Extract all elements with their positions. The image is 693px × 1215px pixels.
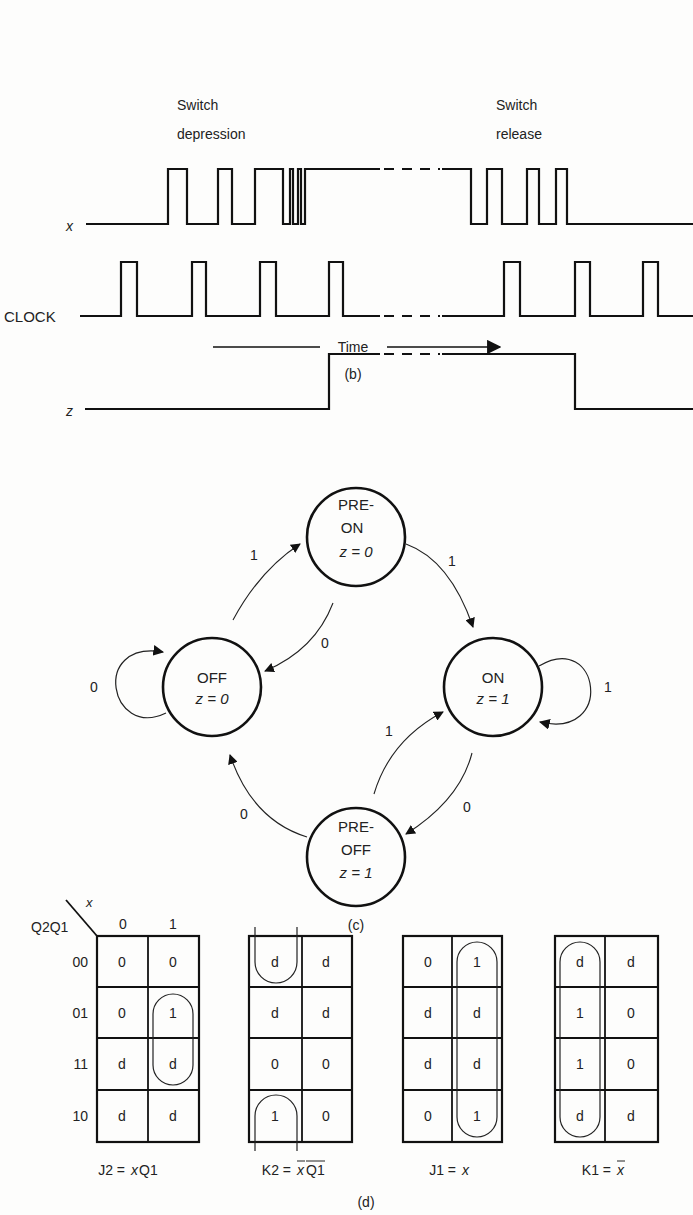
- z-waveform-2: [442, 354, 693, 409]
- state-on-output: z = 1: [476, 690, 510, 707]
- kmap-cell: 1: [576, 1005, 584, 1021]
- edge-label-preoff-off: 0: [240, 806, 248, 822]
- kmap-row-header-00: 00: [72, 954, 88, 970]
- edge-label-on-self: 1: [604, 679, 612, 695]
- kmap-cell: 1: [473, 1108, 481, 1124]
- signal-label-x: x: [65, 218, 74, 234]
- edge-on-to-preoff: [406, 753, 472, 834]
- kmap-cell: 0: [322, 1056, 330, 1072]
- kmap-cell: 0: [424, 954, 432, 970]
- edge-label-preoff-on: 1: [385, 723, 393, 739]
- edge-off-to-preon: [233, 544, 300, 620]
- state-preon-output: z = 0: [339, 543, 374, 560]
- kmap-cell: 1: [473, 954, 481, 970]
- kmap-cell: 1: [271, 1108, 279, 1124]
- kmap-row-header-11: 11: [73, 1056, 88, 1072]
- kmap-cell: 1: [169, 1005, 177, 1021]
- switch-release-label-2: release: [496, 126, 542, 142]
- kmap-j1-eq-rhs: x: [461, 1162, 470, 1178]
- kmap-k2-eq-rhs-q1bar: Q1: [306, 1162, 325, 1178]
- kmap-k1: d d 1 0 1 0 d d K1 = x: [555, 936, 658, 1178]
- kmap-cell: d: [169, 1108, 177, 1124]
- kmap-cell: d: [473, 1005, 481, 1021]
- kmap-cell: d: [576, 954, 584, 970]
- kmap-k1-eq-rhs: x: [616, 1162, 625, 1178]
- edge-preoff-to-off: [230, 755, 307, 837]
- state-on-name: ON: [482, 669, 505, 686]
- state-pre-on: PRE- ON z = 0: [307, 488, 405, 586]
- kmap-j2: 0 0 0 1 d d d d J2 = x Q1: [97, 936, 199, 1178]
- state-off: OFF z = 0: [163, 638, 261, 736]
- state-preoff-output: z = 1: [339, 864, 373, 881]
- kmap-cell: d: [271, 954, 279, 970]
- state-off-name: OFF: [197, 669, 227, 686]
- kmap-cell: 0: [118, 1005, 126, 1021]
- clock-waveform: [80, 262, 380, 316]
- edge-label-on-preoff: 0: [463, 799, 471, 815]
- state-diagram: 1 0 1 0 1 0 0 1 OFF z = 0 PRE- ON z = 0: [90, 488, 612, 933]
- kmap-cell: d: [424, 1005, 432, 1021]
- clock-waveform-2: [442, 262, 693, 316]
- state-off-output: z = 0: [195, 690, 230, 707]
- kmap-j1: 0 1 d d d d 0 1 J1 = x: [403, 936, 502, 1178]
- edge-preon-to-on: [406, 544, 473, 627]
- kmap-row-header-01: 01: [72, 1005, 88, 1021]
- signal-label-z: z: [65, 403, 73, 419]
- kmap-j2-eq-rhs-x: x: [130, 1162, 139, 1178]
- state-preon-name-2: ON: [341, 519, 364, 536]
- kmap-k1-eq-lhs: K1 =: [582, 1162, 611, 1178]
- time-axis-label: Time: [338, 339, 369, 355]
- kmap-cell: 0: [424, 1108, 432, 1124]
- edge-label-off-preon: 1: [250, 547, 258, 563]
- kmap-cell: d: [322, 954, 330, 970]
- self-loop-on: [539, 659, 591, 724]
- state-pre-off: PRE- OFF z = 1: [307, 808, 405, 906]
- kmap-cell: 0: [627, 1056, 635, 1072]
- kmap-k2-eq-rhs-xbar: x: [296, 1162, 305, 1178]
- kmap-cell: 0: [322, 1108, 330, 1124]
- kmap-cell: d: [271, 1005, 279, 1021]
- kmap-j2-eq-rhs-q1: Q1: [139, 1162, 158, 1178]
- kmap-row-var: Q2Q1: [31, 919, 69, 935]
- kmap-cell: d: [322, 1005, 330, 1021]
- state-preoff-name-2: OFF: [341, 841, 371, 858]
- kmaps: x Q2Q1 0 1 00 01 11 10 0 0 0 1 d d d d J…: [31, 895, 658, 1210]
- kmap-j2-eq-lhs: J2 =: [98, 1162, 125, 1178]
- kmap-col-var: x: [85, 895, 93, 910]
- edge-label-off-self: 0: [90, 679, 98, 695]
- edge-label-preon-on: 1: [448, 553, 456, 569]
- state-preoff-name-1: PRE-: [338, 818, 374, 835]
- switch-depression-label-2: depression: [177, 126, 246, 142]
- switch-release-label: Switch: [496, 97, 537, 113]
- self-loop-off: [116, 651, 166, 718]
- kmap-cell: 0: [118, 954, 126, 970]
- state-preon-name-1: PRE-: [338, 496, 374, 513]
- kmap-k2-eq-lhs: K2 =: [262, 1162, 291, 1178]
- kmap-cell: d: [118, 1108, 126, 1124]
- kmap-col-header-0: 0: [119, 916, 127, 932]
- state-on: ON z = 1: [444, 638, 542, 736]
- kmap-cell: d: [473, 1056, 481, 1072]
- x-waveform-release: [442, 169, 693, 224]
- kmap-cell: d: [169, 1056, 177, 1072]
- kmap-cell: 0: [169, 954, 177, 970]
- kmap-cell: d: [118, 1056, 126, 1072]
- kmap-cell: 0: [271, 1056, 279, 1072]
- z-waveform: [85, 354, 380, 409]
- kmap-cell: d: [627, 1108, 635, 1124]
- kmap-cell: d: [576, 1108, 584, 1124]
- switch-depression-label: Switch: [177, 97, 218, 113]
- kmap-cell: 0: [627, 1005, 635, 1021]
- timing-diagram: Switch depression Switch release x CLOCK…: [4, 97, 693, 419]
- kmap-cell: 1: [576, 1056, 584, 1072]
- signal-label-clock: CLOCK: [4, 308, 56, 325]
- caption-d: (d): [357, 1194, 374, 1210]
- kmap-k2: d d d d 0 0 1 0 K2 = x Q1: [249, 927, 352, 1178]
- caption-c: (c): [348, 917, 364, 933]
- kmap-j1-eq-lhs: J1 =: [429, 1162, 456, 1178]
- edge-label-preon-off: 0: [321, 635, 329, 651]
- kmap-cell: d: [627, 954, 635, 970]
- kmap-row-header-10: 10: [72, 1108, 88, 1124]
- figure-canvas: Switch depression Switch release x CLOCK…: [0, 0, 693, 1215]
- caption-b: (b): [344, 366, 361, 382]
